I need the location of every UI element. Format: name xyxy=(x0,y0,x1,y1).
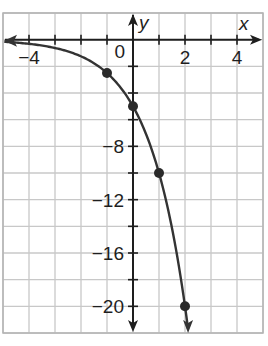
exponential-graph: xy−4024−8−12−16−20 xyxy=(0,0,268,346)
data-point xyxy=(154,168,164,178)
curve-path xyxy=(4,42,188,329)
x-axis-label: x xyxy=(238,13,250,34)
data-point xyxy=(180,301,190,311)
x-tick-label: 4 xyxy=(232,47,243,68)
data-point xyxy=(128,101,138,111)
x-tick-label: 0 xyxy=(114,41,125,62)
y-tick-label: −8 xyxy=(102,136,124,157)
y-tick-label: −20 xyxy=(92,296,124,317)
y-tick-label: −16 xyxy=(92,243,124,264)
x-tick-label: 2 xyxy=(180,47,191,68)
tick-labels: xy−4024−8−12−16−20 xyxy=(18,12,250,317)
y-tick-label: −12 xyxy=(92,190,124,211)
x-tick-label: −4 xyxy=(18,47,40,68)
function-curve xyxy=(4,35,193,333)
y-axis-label: y xyxy=(137,12,150,33)
data-point xyxy=(102,68,112,78)
curve-arrow-left-icon xyxy=(4,35,17,47)
graph-canvas: xy−4024−8−12−16−20 xyxy=(0,0,268,346)
